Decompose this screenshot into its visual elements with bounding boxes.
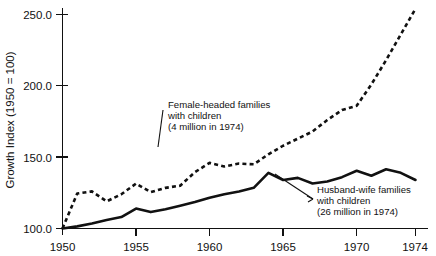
husband-wife-label-line1: Husband-wife families xyxy=(317,184,411,195)
female-headed-label-line3: (4 million in 1974) xyxy=(168,121,244,132)
husband-wife-label-line2: with children xyxy=(316,195,370,206)
y-axis-title: Growth Index (1950 = 100) xyxy=(4,51,16,188)
x-tick-label-1965: 1965 xyxy=(270,241,296,253)
x-tick-label-1950: 1950 xyxy=(50,241,76,253)
female-headed-label-line2: with children xyxy=(167,110,221,121)
female-headed-leader-line xyxy=(158,110,163,147)
husband-wife-arrow-icon xyxy=(307,196,313,202)
y-tick-label-250: 250.0 xyxy=(23,9,52,21)
x-tick-label-1960: 1960 xyxy=(197,241,223,253)
x-tick-label-1955: 1955 xyxy=(123,241,149,253)
y-tick-label-100: 100.0 xyxy=(23,223,52,235)
x-tick-label-1970: 1970 xyxy=(344,241,370,253)
y-tick-label-200: 200.0 xyxy=(23,80,52,92)
x-tick-label-1974: 1974 xyxy=(402,241,428,253)
y-tick-label-150: 150.0 xyxy=(23,152,52,164)
female-headed-label-line1: Female-headed families xyxy=(168,99,271,110)
growth-index-chart: 250.0 200.0 150.0 100.0 1950 1955 1960 1… xyxy=(0,0,436,256)
chart-canvas: 250.0 200.0 150.0 100.0 1950 1955 1960 1… xyxy=(0,0,436,256)
husband-wife-label-line3: (26 million in 1974) xyxy=(317,206,398,217)
